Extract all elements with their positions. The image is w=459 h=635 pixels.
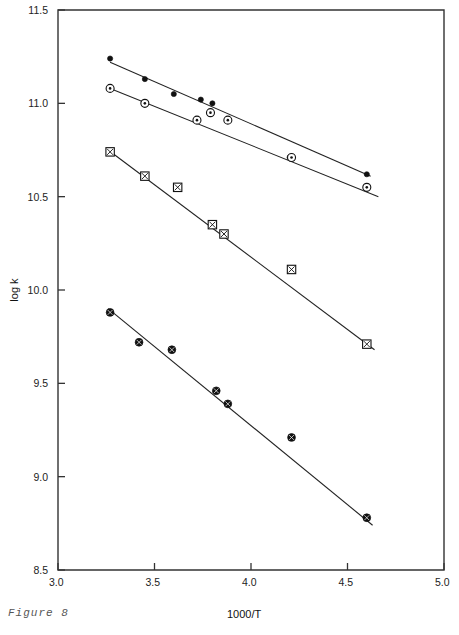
data-point (193, 116, 201, 124)
series-4 (106, 309, 372, 526)
fit-line (110, 88, 378, 196)
data-point (135, 338, 143, 346)
y-tick-label: 9.5 (33, 377, 48, 389)
data-point (106, 84, 114, 92)
data-point (171, 91, 176, 96)
data-point (142, 76, 147, 81)
y-tick-label: 10.0 (28, 284, 49, 296)
fit-line (108, 309, 372, 526)
x-tick-label: 4.5 (339, 576, 354, 588)
figure-panel: 3.03.54.04.55.08.59.09.510.010.511.011.5… (0, 0, 459, 635)
x-tick-label: 4.0 (242, 576, 257, 588)
marker-center-dot (144, 102, 147, 105)
x-tick-label: 3.5 (146, 576, 161, 588)
data-point (224, 116, 232, 124)
data-point (363, 183, 371, 191)
marker-center-dot (109, 87, 112, 90)
y-tick-label: 9.0 (33, 471, 48, 483)
y-tick-label: 11.0 (28, 97, 48, 109)
fit-line (110, 62, 371, 176)
marker-center-dot (209, 111, 212, 114)
y-tick-label: 11.5 (28, 4, 48, 16)
data-point (208, 220, 216, 228)
marker-filled-circle (142, 76, 147, 81)
marker-filled-circle (198, 97, 203, 102)
y-axis-label: log k (8, 278, 20, 302)
marker-center-dot (290, 156, 293, 159)
x-axis-label: 1000/T (227, 608, 262, 620)
marker-filled-circle (364, 172, 369, 177)
data-point (106, 309, 114, 317)
data-point (224, 400, 232, 408)
figure-caption: Figure 8 (8, 607, 69, 619)
data-point (288, 153, 296, 161)
y-tick-label: 10.5 (28, 191, 49, 203)
data-point (141, 99, 149, 107)
data-point (363, 340, 371, 348)
marker-filled-circle (171, 91, 176, 96)
data-point (287, 265, 295, 273)
data-point (198, 97, 203, 102)
data-point (363, 514, 371, 522)
data-point (220, 230, 228, 238)
data-point (210, 101, 215, 106)
x-tick-label: 5.0 (435, 576, 450, 588)
plot-frame (58, 10, 444, 570)
series-1 (108, 56, 371, 177)
marker-filled-circle (210, 101, 215, 106)
marker-center-dot (227, 119, 230, 122)
data-point (173, 183, 181, 191)
data-point (288, 434, 296, 442)
data-point (206, 109, 214, 117)
marker-filled-circle (108, 56, 113, 61)
x-tick-label: 3.0 (49, 576, 64, 588)
data-point (141, 172, 149, 180)
data-point (168, 346, 176, 354)
y-tick-label: 8.5 (33, 564, 48, 576)
scatter-plot: 3.03.54.04.55.08.59.09.510.010.511.011.5… (0, 0, 459, 635)
data-point (108, 56, 113, 61)
marker-center-dot (366, 186, 369, 189)
data-point (364, 172, 369, 177)
marker-center-dot (196, 119, 199, 122)
data-point (106, 148, 114, 156)
series-3 (106, 148, 375, 350)
data-point (212, 387, 220, 395)
